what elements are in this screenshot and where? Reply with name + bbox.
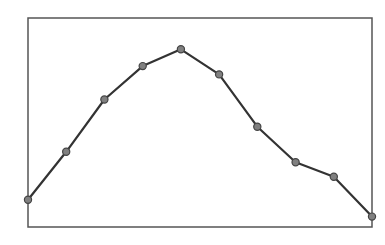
data-point xyxy=(330,173,337,180)
data-point xyxy=(139,63,146,70)
data-point xyxy=(101,96,108,103)
plot-frame xyxy=(28,18,372,227)
data-point xyxy=(292,159,299,166)
data-point xyxy=(368,213,375,220)
line-chart xyxy=(0,0,385,245)
data-point xyxy=(24,196,31,203)
data-point xyxy=(254,123,261,130)
data-point xyxy=(216,71,223,78)
data-point xyxy=(63,148,70,155)
data-point xyxy=(177,46,184,53)
